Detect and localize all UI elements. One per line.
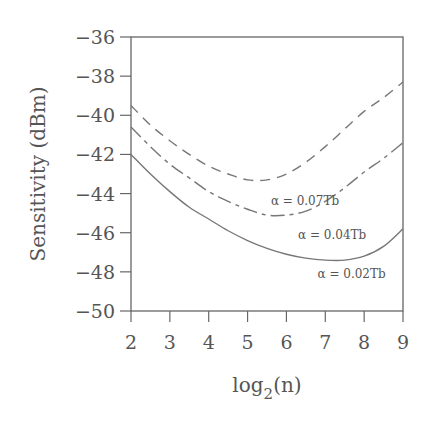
- y-tick-label: −48: [75, 261, 115, 283]
- x-tick-label: 8: [358, 331, 370, 353]
- series-line-dashdot: [131, 127, 403, 216]
- y-tick-label: −36: [75, 26, 115, 48]
- y-tick-label: −44: [75, 183, 115, 205]
- series-annotation: α = 0.02Tb: [318, 267, 387, 281]
- x-tick-label: 9: [397, 331, 409, 353]
- annotations: α = 0.07Tbα = 0.04Tbα = 0.02Tb: [271, 194, 386, 280]
- sensitivity-chart: −36−38−40−42−44−46−48−50 23456789 α = 0.…: [0, 0, 436, 430]
- y-axis: −36−38−40−42−44−46−48−50: [75, 26, 131, 322]
- y-tick-label: −42: [75, 143, 115, 165]
- x-tick-label: 3: [164, 331, 176, 353]
- series-line-solid: [131, 154, 403, 260]
- x-axis-label-tail: (n): [273, 373, 302, 397]
- x-axis-label-subscript: 2: [264, 385, 274, 403]
- x-tick-label: 2: [125, 331, 137, 353]
- x-tick-label: 4: [203, 331, 215, 353]
- x-axis-label: log2(n): [232, 373, 301, 403]
- y-tick-label: −38: [75, 65, 115, 87]
- y-axis-label: Sensitivity (dBm): [26, 87, 50, 262]
- y-tick-label: −40: [75, 104, 115, 126]
- y-tick-label: −46: [75, 222, 115, 244]
- x-axis-label-base: log: [232, 373, 263, 397]
- x-axis: 23456789: [125, 311, 409, 353]
- series-annotation: α = 0.07Tb: [271, 194, 340, 208]
- x-tick-label: 6: [280, 331, 292, 353]
- x-tick-label: 7: [319, 331, 331, 353]
- series-annotation: α = 0.04Tb: [298, 228, 367, 242]
- x-tick-label: 5: [242, 331, 254, 353]
- y-tick-label: −50: [75, 300, 115, 322]
